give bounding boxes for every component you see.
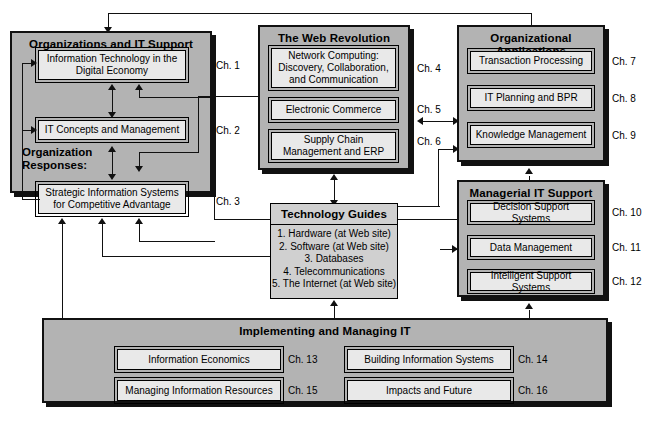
box-label: Supply Chain Management and ERP — [275, 134, 392, 158]
group-technology-guides[interactable]: Technology Guides 1. Hardware (at Web si… — [270, 203, 398, 299]
chapter-label-ch10: Ch. 10 — [612, 207, 641, 218]
connector-strategic-left-vertical — [62, 222, 63, 327]
group-title-technology-guides: Technology Guides — [271, 204, 397, 225]
chapter-label-ch15: Ch. 15 — [288, 385, 317, 396]
arrow-up-org-2 — [108, 146, 116, 152]
connector-org-feedback-bottom — [22, 199, 40, 200]
connector-strategic-right-vertical — [139, 222, 140, 242]
box-impacts-and-future[interactable]: Impacts and Future — [347, 380, 511, 401]
box-label: Electronic Commerce — [286, 104, 382, 116]
chapter-label-ch5: Ch. 5 — [417, 104, 441, 115]
box-label: Information Technology in the Digital Ec… — [42, 53, 182, 77]
connector-org-feedback-vertical — [22, 63, 23, 200]
box-electronic-commerce[interactable]: Electronic Commerce — [271, 100, 396, 120]
list-item: 1. Hardware (at Web site) — [271, 228, 397, 241]
arrow-right-into-box1 — [31, 59, 37, 67]
box-network-computing[interactable]: Network Computing: Discovery, Collaborat… — [271, 48, 396, 88]
group-title-organizations: Organizations and IT Support — [12, 33, 210, 51]
box-decision-support-systems[interactable]: Decision Support Systems — [470, 203, 592, 222]
chapter-label-ch11: Ch. 11 — [612, 242, 641, 253]
box-strategic-information-systems[interactable]: Strategic Information Systems for Compet… — [38, 184, 186, 214]
connector-org-1-2 — [112, 88, 113, 114]
box-label: IT Concepts and Management — [45, 124, 179, 136]
sub-label-organization-responses: Organization Responses: — [22, 146, 92, 172]
chapter-label-ch6: Ch. 6 — [417, 136, 441, 147]
box-supply-chain-management-erp[interactable]: Supply Chain Management and ERP — [271, 132, 396, 160]
connector-into-box3-top — [198, 96, 258, 97]
connector-into-box3-horizontal — [139, 152, 199, 153]
group-title-managerial-it-support: Managerial IT Support — [459, 182, 603, 200]
box-label: Strategic Information Systems for Compet… — [42, 187, 182, 211]
connector-into-box1-vertical — [214, 97, 215, 220]
connector-org-2-3 — [112, 150, 113, 176]
connector-top-horizontal — [108, 13, 532, 14]
chapter-label-ch8: Ch. 8 — [612, 93, 636, 104]
arrow-right-into-box2 — [31, 126, 37, 134]
connector-ch6-to-techguides — [398, 206, 440, 207]
box-label: Network Computing: Discovery, Collaborat… — [275, 50, 392, 86]
chapter-label-ch7: Ch. 7 — [612, 56, 636, 67]
group-title-implementing: Implementing and Managing IT — [44, 320, 606, 338]
box-data-management[interactable]: Data Management — [470, 238, 592, 257]
box-label: IT Planning and BPR — [484, 92, 577, 104]
connector-top-left-stub — [108, 13, 109, 28]
connector-strategic-right-horizontal — [139, 241, 215, 242]
diagram-canvas: Organizations and IT Support Information… — [0, 0, 652, 421]
chapter-label-ch4: Ch. 4 — [417, 63, 441, 74]
connector-ch6-horizontal — [438, 149, 456, 150]
arrow-left-ch5 — [417, 117, 423, 125]
box-label: Decision Support Systems — [474, 201, 588, 225]
box-intelligent-support-systems[interactable]: Intelligent Support Systems — [470, 272, 592, 291]
arrow-down-org-2 — [108, 112, 116, 118]
arrow-up-into-managerial-it-support — [525, 303, 533, 309]
connector-into-box1-horizontal — [139, 97, 215, 98]
connector-into-box3-vertical — [198, 96, 199, 152]
chapter-label-ch13: Ch. 13 — [288, 354, 317, 365]
box-label: Managing Information Resources — [125, 385, 272, 397]
list-item: 2. Software (at Web site) — [271, 241, 397, 254]
chapter-label-ch1: Ch. 1 — [216, 60, 240, 71]
technology-guides-list: 1. Hardware (at Web site) 2. Software (a… — [271, 225, 397, 291]
chapter-label-ch12: Ch. 12 — [612, 276, 641, 287]
box-label: Data Management — [490, 242, 572, 254]
chapter-label-ch9: Ch. 9 — [612, 130, 636, 141]
list-item: 5. The Internet (at Web site) — [271, 278, 397, 291]
group-title-web-revolution: The Web Revolution — [260, 27, 408, 45]
arrow-up-to-web-revolution — [330, 174, 338, 180]
box-label: Building Information Systems — [364, 354, 494, 366]
box-information-economics[interactable]: Information Economics — [117, 349, 281, 370]
box-label: Information Economics — [148, 354, 250, 366]
box-building-information-systems[interactable]: Building Information Systems — [347, 349, 511, 370]
chapter-label-ch14: Ch. 14 — [518, 354, 547, 365]
chapter-label-ch3: Ch. 3 — [216, 196, 240, 207]
arrow-up-into-organizational-applications — [525, 168, 533, 174]
connector-strategic-mid-vertical — [102, 222, 103, 257]
connector-strategic-mid-horizontal — [102, 256, 287, 257]
box-label: Transaction Processing — [479, 55, 583, 67]
list-item: 3. Databases — [271, 253, 397, 266]
box-it-planning-and-bpr[interactable]: IT Planning and BPR — [470, 88, 592, 108]
arrow-right-into-managerial — [452, 245, 458, 253]
arrow-up-org-1 — [108, 84, 116, 90]
box-label: Intelligent Support Systems — [474, 270, 588, 294]
box-information-technology-digital-economy[interactable]: Information Technology in the Digital Ec… — [38, 50, 186, 80]
box-managing-information-resources[interactable]: Managing Information Resources — [117, 380, 281, 401]
sub-label-line2: Responses: — [22, 159, 92, 172]
chapter-label-ch2: Ch. 2 — [216, 125, 240, 136]
box-label: Knowledge Management — [476, 129, 587, 141]
box-label: Impacts and Future — [386, 385, 472, 397]
sub-label-line1: Organization — [22, 146, 92, 159]
arrow-down-org-3 — [108, 174, 116, 180]
connector-ch6-vertical — [438, 149, 439, 207]
connector-into-box3-stub — [139, 152, 140, 166]
box-it-concepts-and-management[interactable]: IT Concepts and Management — [38, 120, 186, 140]
arrow-down-into-box3-from-right — [135, 166, 143, 172]
connector-web-techguides — [334, 178, 335, 202]
chapter-label-ch16: Ch. 16 — [518, 385, 547, 396]
arrow-up-to-technology-guides-bottom — [330, 300, 338, 306]
box-knowledge-management[interactable]: Knowledge Management — [470, 125, 592, 145]
list-item: 4. Telecommunications — [271, 266, 397, 279]
box-transaction-processing[interactable]: Transaction Processing — [470, 51, 592, 71]
